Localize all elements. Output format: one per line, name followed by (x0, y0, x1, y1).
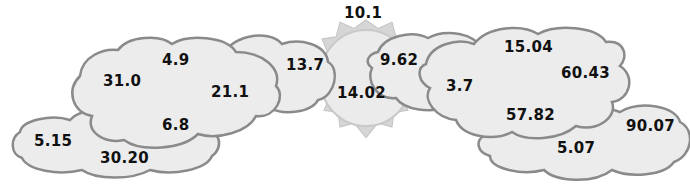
cloud-number: 5.07 (557, 139, 595, 157)
cloud-number: 57.82 (506, 106, 555, 124)
cloud-number: 4.9 (162, 51, 189, 69)
sun-number-top: 10.1 (344, 4, 382, 22)
cloud-number: 15.04 (504, 38, 553, 56)
cloud-number: 5.15 (34, 132, 72, 150)
cloud-number: 13.7 (286, 56, 324, 74)
cloud-number: 31.0 (103, 72, 141, 90)
cloud-number: 21.1 (211, 83, 249, 101)
cloud-number: 90.07 (626, 117, 675, 135)
cloud-number: 60.43 (561, 64, 610, 82)
cloud-number: 6.8 (162, 116, 189, 134)
cloud-number: 3.7 (446, 77, 473, 95)
sun-number-bottom: 14.02 (337, 84, 386, 102)
cloud-number: 30.20 (100, 149, 149, 167)
cloud-number: 9.62 (380, 51, 418, 69)
